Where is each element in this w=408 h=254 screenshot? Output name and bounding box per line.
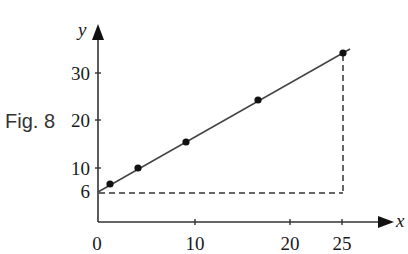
x-tick-label: 10 bbox=[175, 234, 215, 253]
x-tick-label: 0 bbox=[77, 234, 117, 253]
y-tick-label: 30 bbox=[50, 64, 90, 83]
data-point bbox=[339, 49, 346, 56]
data-point bbox=[182, 138, 189, 145]
y-axis-arrow-icon bbox=[92, 24, 104, 40]
data-point bbox=[134, 164, 141, 171]
y-tick-label: 6 bbox=[50, 182, 90, 201]
x-axis-arrow-icon bbox=[378, 216, 394, 228]
x-axis-label: x bbox=[396, 211, 404, 230]
y-tick-label: 20 bbox=[50, 111, 90, 130]
x-tick-label: 20 bbox=[270, 234, 310, 253]
data-point bbox=[106, 180, 113, 187]
data-point bbox=[254, 96, 261, 103]
y-axis-label: y bbox=[78, 20, 86, 39]
y-tick-label: 10 bbox=[50, 159, 90, 178]
figure-label: Fig. 8 bbox=[5, 111, 55, 131]
x-tick-label: 25 bbox=[322, 234, 362, 253]
